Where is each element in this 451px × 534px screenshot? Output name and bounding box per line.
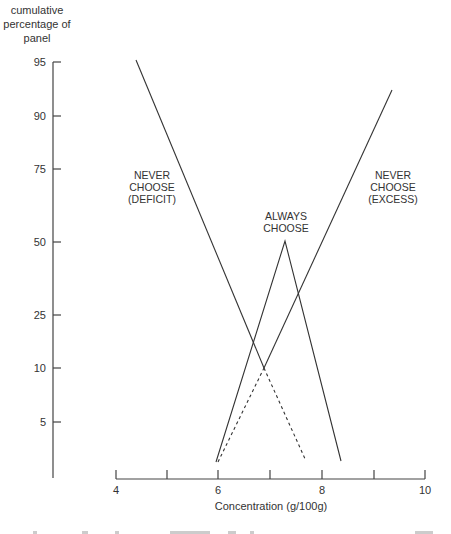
svg-text:(EXCESS): (EXCESS): [368, 193, 418, 205]
svg-text:(DEFICIT): (DEFICIT): [128, 193, 176, 205]
y-axis-title-line-3: panel: [24, 32, 51, 44]
x-axis: [116, 470, 425, 479]
svg-text:NEVER: NEVER: [375, 169, 412, 181]
y-tick-label: 10: [34, 362, 46, 374]
y-tick-label: 75: [34, 163, 46, 175]
svg-text:CHOOSE: CHOOSE: [370, 181, 416, 193]
label-never-choose-excess: NEVER CHOOSE (EXCESS): [368, 169, 418, 205]
svg-text:NEVER: NEVER: [134, 169, 171, 181]
chart: cumulative percentage of panel 95 90 75 …: [0, 0, 451, 534]
x-tick-label: 10: [419, 484, 431, 496]
x-tick-label: 6: [215, 484, 221, 496]
label-always-choose: ALWAYS CHOOSE: [263, 210, 309, 234]
label-never-choose-deficit: NEVER CHOOSE (DEFICIT): [128, 169, 176, 205]
y-tick-label: 50: [34, 236, 46, 248]
x-tick-label: 8: [319, 484, 325, 496]
y-tick-label: 95: [34, 56, 46, 68]
y-tick-label: 90: [34, 110, 46, 122]
y-axis-title-line-1: cumulative: [11, 4, 64, 16]
x-tick-label: 4: [113, 484, 119, 496]
series-never-choose-deficit: [136, 60, 306, 461]
svg-text:CHOOSE: CHOOSE: [129, 181, 175, 193]
svg-text:CHOOSE: CHOOSE: [263, 222, 309, 234]
x-axis-title: Concentration (g/100g): [215, 500, 328, 512]
svg-text:ALWAYS: ALWAYS: [265, 210, 307, 222]
y-axis: [53, 62, 61, 478]
y-tick-label: 25: [34, 309, 46, 321]
series-never-choose-excess: [218, 90, 392, 462]
y-axis-title-line-2: percentage of: [3, 18, 71, 30]
y-tick-label: 5: [40, 416, 46, 428]
